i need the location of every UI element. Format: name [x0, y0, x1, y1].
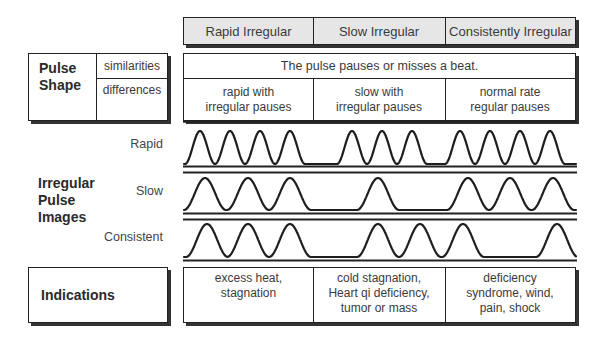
indications-label-block: Indications	[28, 267, 168, 323]
indications-table: excess heat, stagnation cold stagnation,…	[183, 267, 576, 323]
indication-slow: cold stagnation, Heart qi deficiency, tu…	[313, 271, 445, 319]
waveform-rapid	[184, 131, 576, 164]
waveform-slow	[184, 178, 576, 210]
indication-rapid: excess heat, stagnation	[184, 271, 313, 319]
waveform-consistent	[184, 224, 576, 257]
indications-title: Indications	[41, 268, 115, 322]
indication-consistent: deficiency syndrome, wind, pain, shock	[445, 271, 575, 319]
